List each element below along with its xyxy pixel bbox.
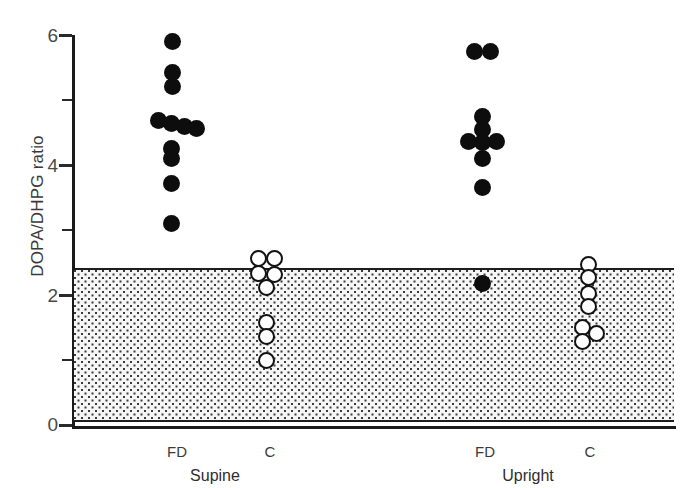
data-point — [466, 43, 483, 60]
data-point — [164, 33, 181, 50]
y-tick-0 — [59, 424, 72, 427]
chart-figure: DOPA/DHPG ratio 6 4 2 0 — [0, 0, 690, 488]
x-tick-label-c-supine: C — [240, 443, 300, 460]
y-tick-label-0: 0 — [28, 414, 58, 436]
y-tick-4 — [59, 164, 72, 167]
y-tick-2 — [59, 294, 72, 297]
data-point — [474, 150, 491, 167]
data-point — [488, 133, 505, 150]
data-point — [188, 120, 205, 137]
data-point — [258, 328, 275, 345]
data-point — [164, 78, 181, 95]
data-point — [580, 298, 597, 315]
x-tick-label-fd-supine: FD — [147, 443, 207, 460]
data-point — [474, 179, 491, 196]
x-group-label-upright: Upright — [478, 467, 578, 485]
y-axis-label: DOPA/DHPG ratio — [28, 106, 48, 306]
y-tick-label-2: 2 — [28, 285, 58, 307]
y-tick-label-6: 6 — [28, 25, 58, 47]
x-tick-label-c-upright: C — [560, 443, 620, 460]
data-point — [163, 175, 180, 192]
data-point — [163, 215, 180, 232]
y-tick-label-4: 4 — [28, 155, 58, 177]
data-point — [163, 150, 180, 167]
data-point — [580, 269, 597, 286]
data-point — [474, 275, 491, 292]
data-point — [574, 333, 591, 350]
data-point — [258, 352, 275, 369]
data-point — [258, 279, 275, 296]
x-tick-label-fd-upright: FD — [455, 443, 515, 460]
y-tick-1 — [62, 359, 72, 361]
data-point — [266, 250, 283, 267]
x-axis-spine — [72, 426, 676, 429]
data-point — [482, 43, 499, 60]
x-group-label-supine: Supine — [165, 467, 265, 485]
y-tick-5 — [62, 99, 72, 101]
y-tick-6 — [59, 34, 72, 37]
y-tick-3 — [62, 229, 72, 231]
